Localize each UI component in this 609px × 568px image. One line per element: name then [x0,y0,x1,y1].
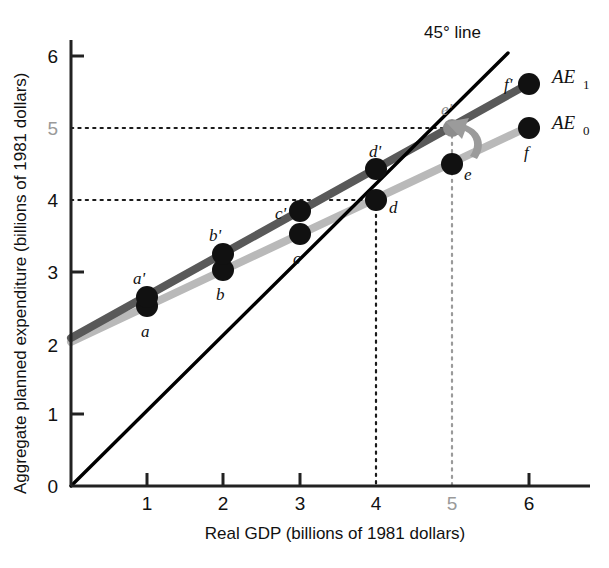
x-axis-ticks [147,473,529,486]
y-axis-title: Aggregate planned expenditure (billions … [11,72,30,494]
data-point-f-prime[interactable] [518,73,540,95]
point-label-f-prime: f' [504,75,513,94]
data-point-d-prime[interactable] [365,158,387,180]
point-label-e-prime: e' [441,100,453,119]
data-point-c[interactable] [289,223,311,245]
point-label-b-prime: b' [209,226,222,245]
series-label-ae0-subscript: 0 [583,123,590,138]
data-point-f[interactable] [518,117,540,139]
y-tick-label-2: 2 [47,335,58,356]
data-point-b-prime[interactable] [212,243,234,265]
point-label-f: f [524,143,531,162]
point-label-d-prime: d' [369,142,382,161]
data-point-a-prime[interactable] [136,286,158,308]
x-tick-label-2: 2 [218,493,229,514]
x-axis-title: Real GDP (billions of 1981 dollars) [205,524,465,543]
point-label-e: e [464,165,472,184]
data-point-d[interactable] [365,189,387,211]
data-point-c-prime[interactable] [289,200,311,222]
point-label-b: b [216,285,225,304]
y-tick-label-1: 1 [47,404,58,425]
series-label-ae1-subscript: 1 [583,77,590,92]
chart-canvas: 6 5 4 3 2 1 0 1 2 3 4 5 6 Aggregate plan… [0,0,609,568]
y-tick-label-6: 6 [47,46,58,67]
point-label-c-prime: c' [275,204,287,223]
x-tick-label-6: 6 [524,493,535,514]
y-tick-label-0: 0 [47,476,58,497]
y-tick-label-4: 4 [47,190,58,211]
series-label-ae0: AE 0 [550,112,590,138]
x-tick-label-1: 1 [142,493,153,514]
y-tick-label-5: 5 [47,118,58,139]
x-tick-label-5: 5 [447,493,458,514]
chart-figure: 6 5 4 3 2 1 0 1 2 3 4 5 6 Aggregate plan… [0,0,609,568]
point-label-c: c [293,249,301,268]
point-label-a-prime: a' [133,269,146,288]
axes [71,40,590,486]
series-label-ae1-text: AE [550,66,576,87]
point-labels-ae0: a b c d e f [141,143,531,341]
series-label-ae0-text: AE [550,112,576,133]
x-tick-labels: 1 2 3 4 5 6 [142,493,535,514]
point-label-a: a [141,322,150,341]
y-tick-labels: 6 5 4 3 2 1 0 [47,46,58,497]
annotation-45-degree-line: 45° line [424,23,481,42]
data-point-e[interactable] [441,153,463,175]
y-axis-ticks [71,56,84,414]
x-tick-label-4: 4 [371,493,382,514]
point-label-d: d [389,198,398,217]
series-label-ae1: AE 1 [550,66,590,92]
x-tick-label-3: 3 [295,493,306,514]
y-tick-label-3: 3 [47,262,58,283]
